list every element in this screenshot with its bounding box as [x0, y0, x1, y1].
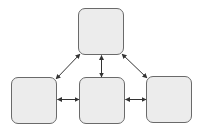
diagram-canvas	[0, 0, 203, 131]
edge-top-right-arrow-icon	[122, 54, 147, 78]
node-top	[78, 8, 124, 55]
edge-top-left-arrow-icon	[56, 54, 80, 79]
node-right	[146, 76, 192, 123]
node-center	[79, 77, 125, 124]
node-left	[11, 77, 57, 124]
